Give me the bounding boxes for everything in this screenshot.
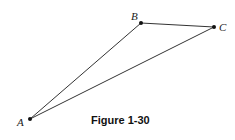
- segment-ab: [30, 23, 141, 119]
- label-b: B: [131, 10, 138, 22]
- point-a: [28, 117, 32, 121]
- label-c: C: [219, 21, 227, 33]
- point-c: [212, 25, 216, 29]
- triangle-diagram: A B C Figure 1-30: [0, 0, 235, 140]
- label-a: A: [16, 116, 24, 128]
- segment-ac: [30, 27, 214, 119]
- figure-caption: Figure 1-30: [91, 114, 150, 126]
- segment-bc: [141, 23, 214, 27]
- point-b: [139, 21, 143, 25]
